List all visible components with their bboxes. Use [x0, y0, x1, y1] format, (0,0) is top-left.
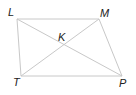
geometry-diagram: L M K T P [0, 0, 136, 95]
side-MP [99, 19, 122, 76]
label-T: T [13, 76, 21, 88]
side-TL [17, 19, 21, 76]
label-K: K [58, 31, 66, 43]
label-P: P [119, 77, 127, 89]
label-M: M [100, 7, 110, 19]
label-L: L [8, 6, 14, 18]
